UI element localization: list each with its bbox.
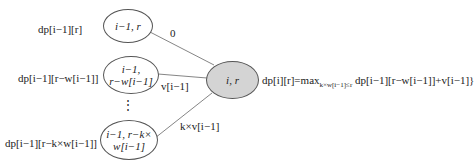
node-bottom: i−1, r−k× w[i−1] (100, 120, 158, 160)
edge-label-bottom: k×v[i−1] (180, 120, 219, 132)
node-middle: i−1, r−w[i−1] (103, 56, 159, 94)
node-middle-line1: i−1, (122, 63, 141, 75)
label-bottom: dp[i−1][r−k×w[i−1]] (5, 137, 97, 149)
edge-top (150, 32, 214, 65)
node-top-text: i−1, r (115, 20, 141, 32)
edge-label-top: 0 (170, 27, 176, 39)
recurrence-formula: dp[i][r]=maxk×w[i−1]≤r dp[i−1][r−w[i−1]]… (262, 74, 474, 89)
label-top: dp[i−1][r] (38, 23, 82, 35)
node-bottom-line2: w[i−1] (113, 140, 145, 152)
node-center: i, r (206, 61, 259, 99)
ellipsis-icon: ⋮ (122, 103, 132, 107)
node-center-text: i, r (226, 74, 239, 86)
edge-middle (158, 74, 207, 78)
label-middle: dp[i−1][r−w[i−1]] (18, 72, 98, 84)
node-top: i−1, r (103, 9, 153, 43)
node-bottom-line1: i−1, r−k× (106, 128, 152, 140)
formula-rhs: dp[i−1][r−w[i−1]]+v[i−1]} (352, 74, 474, 86)
formula-subscript: k×w[i−1]≤r (320, 81, 353, 89)
node-middle-line2: r−w[i−1] (109, 75, 153, 87)
edge-label-middle: v[i−1] (161, 80, 189, 92)
formula-lhs: dp[i][r]=max (262, 74, 320, 86)
